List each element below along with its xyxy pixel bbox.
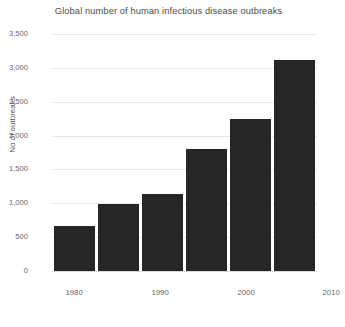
bar: [274, 60, 315, 271]
gridline: [52, 271, 317, 272]
chart-title: Global number of human infectious diseas…: [0, 6, 337, 16]
bar: [186, 149, 227, 271]
bar: [98, 204, 139, 271]
bar: [230, 119, 271, 271]
y-tick-label: 3,500: [0, 29, 28, 38]
bar: [54, 226, 95, 271]
x-tick-label: 1980: [49, 288, 99, 297]
x-tick-label: 2000: [221, 288, 271, 297]
y-tick-label: 1,000: [0, 198, 28, 207]
y-tick-label: 0: [0, 266, 28, 275]
y-tick-label: 3,000: [0, 63, 28, 72]
plot-area: 05001,0001,5002,0002,5003,0003,500198019…: [52, 34, 317, 271]
bar: [142, 194, 183, 271]
y-tick-label: 500: [0, 232, 28, 241]
x-tick-label: 1990: [135, 288, 185, 297]
y-tick-label: 2,000: [0, 131, 28, 140]
gridline: [52, 34, 317, 35]
y-tick-label: 2,500: [0, 97, 28, 106]
x-tick-label: 2010: [306, 288, 345, 297]
y-tick-label: 1,500: [0, 164, 28, 173]
